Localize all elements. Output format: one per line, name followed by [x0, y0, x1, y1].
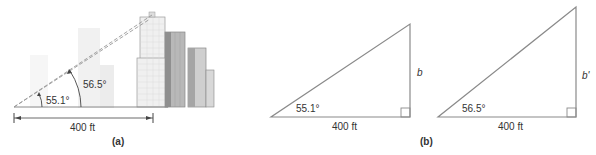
triangle-1-angle: 55.1° — [296, 103, 319, 114]
right-angle-marker — [567, 108, 576, 117]
triangle-1-base: 400 ft — [332, 121, 357, 132]
triangle-2-side: b' — [582, 70, 591, 81]
dark-building — [165, 32, 185, 107]
triangle-2-base: 400 ft — [498, 121, 523, 132]
ghost-building — [78, 28, 100, 108]
triangle-1: 55.1° 400 ft b — [271, 24, 423, 132]
figure-a: 55.1° 56.5° 400 ft (a) — [14, 12, 214, 147]
triangle-2: 56.5° 400 ft b' — [438, 7, 591, 132]
caption-a: (a) — [112, 136, 124, 147]
triangle-2-angle: 56.5° — [462, 103, 485, 114]
short-building — [188, 48, 214, 107]
angle-label-small: 55.1° — [46, 95, 69, 106]
distance-label: 400 ft — [70, 122, 95, 133]
caption-b: (b) — [420, 136, 433, 147]
tall-building — [137, 12, 168, 107]
angle-label-large: 56.5° — [83, 79, 106, 90]
figure-canvas: 55.1° 56.5° 400 ft (a) 55.1° 400 ft b 56… — [0, 0, 596, 155]
figure-b: 55.1° 400 ft b 56.5° 400 ft b' (b) — [271, 7, 591, 147]
triangle-1-side: b — [417, 67, 423, 78]
right-angle-marker — [401, 108, 410, 117]
